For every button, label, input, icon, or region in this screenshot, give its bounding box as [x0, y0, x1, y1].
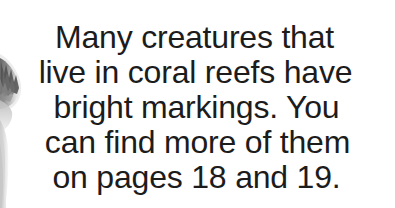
- caption-panel: Many creatures that live in coral reefs …: [0, 0, 395, 208]
- caption-line-1: Many creatures that: [0, 20, 395, 55]
- caption-line-3: bright markings. You: [0, 90, 395, 125]
- caption-line-4: can find more of them: [0, 125, 395, 160]
- caption-text: Many creatures that live in coral reefs …: [0, 0, 395, 195]
- caption-line-5: on pages 18 and 19.: [0, 160, 395, 195]
- caption-line-2: live in coral reefs have: [0, 55, 395, 90]
